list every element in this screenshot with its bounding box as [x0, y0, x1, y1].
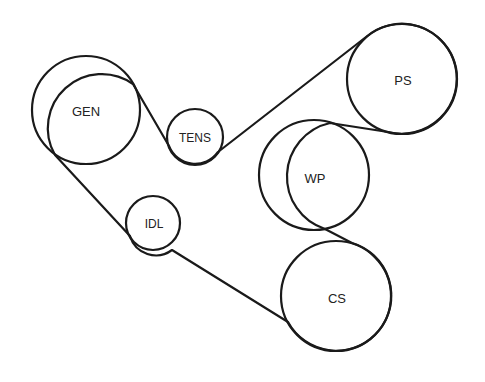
pulley-gen: GEN — [32, 56, 140, 164]
pulley-ps: PS — [347, 24, 457, 134]
tens-label: TENS — [179, 131, 211, 145]
wp-label: WP — [305, 171, 326, 186]
gen-label: GEN — [72, 104, 100, 119]
cs-label: CS — [328, 291, 346, 306]
pulley-cs: CS — [281, 241, 391, 351]
ps-label: PS — [394, 73, 412, 88]
pulley-wp: WP — [259, 120, 369, 230]
pulley-idl: IDL — [126, 196, 180, 250]
belt-routing-diagram: GEN TENS PS WP IDL CS — [0, 0, 485, 382]
pulley-tens: TENS — [167, 109, 223, 165]
idl-label: IDL — [145, 217, 164, 231]
